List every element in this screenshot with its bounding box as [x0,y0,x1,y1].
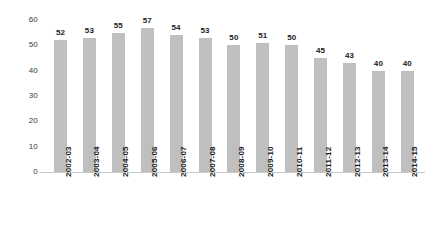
bar-value-label: 55 [105,22,131,30]
x-axis-category-label: 2014-15 [411,146,419,177]
y-axis-tick-label: 10 [18,143,38,151]
y-axis-tick-label: 50 [18,41,38,49]
bar-value-label: 51 [250,32,276,40]
bar-value-label: 43 [337,52,363,60]
y-axis-tick-label: 30 [18,92,38,100]
bar-value-label: 50 [221,34,247,42]
y-axis-tick-label: 0 [18,168,38,176]
bar-value-label: 45 [308,47,334,55]
plot-area: 0102030405060 52535557545350515045434040… [0,0,441,228]
x-axis-category-label: 2005-06 [151,146,159,177]
bar-value-label: 40 [394,60,420,68]
x-axis-category-label: 2013-14 [382,146,390,177]
x-axis-category-label: 2011-12 [325,147,333,177]
x-axis-category-label: 2003-04 [93,146,101,177]
x-axis-category-label: 2010-11 [296,147,304,177]
x-axis-category-label: 2004-05 [122,146,130,177]
bar-value-label: 40 [365,60,391,68]
bar-value-label: 53 [192,27,218,35]
x-axis-category-label: 2007-08 [209,146,217,177]
x-axis-category-label: 2012-13 [354,146,362,177]
y-axis-tick-label: 40 [18,67,38,75]
bar-chart: 0102030405060 52535557545350515045434040… [0,0,441,228]
bar-value-label: 52 [48,29,74,37]
bar-value-label: 53 [76,27,102,35]
bar-value-label: 50 [279,34,305,42]
bar-value-label: 57 [134,17,160,25]
y-axis-tick-label: 60 [18,16,38,24]
y-axis-tick-label: 20 [18,117,38,125]
x-axis-category-label: 2002-03 [65,146,73,177]
x-axis-category-label: 2009-10 [267,146,275,177]
x-axis-category-label: 2006-07 [180,146,188,177]
x-axis-category-label: 2008-09 [238,146,246,177]
bar-value-label: 54 [163,24,189,32]
